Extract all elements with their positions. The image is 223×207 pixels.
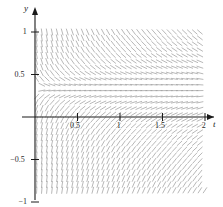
field-segment [187, 135, 193, 139]
field-segment [157, 147, 162, 152]
field-segment [97, 169, 99, 176]
field-segment [198, 187, 202, 193]
field-segment [132, 152, 136, 158]
field-segment [197, 36, 203, 40]
field-segment [136, 135, 141, 140]
field-segment [126, 129, 131, 134]
field-segment [192, 48, 198, 52]
field-segment [167, 29, 172, 34]
field-segment [137, 181, 140, 187]
field-segment [203, 187, 207, 193]
field-segment [171, 54, 177, 58]
field-segment [167, 170, 171, 176]
field-segment [121, 35, 125, 41]
field-segment [41, 52, 43, 59]
field-segment [46, 122, 48, 129]
field-segment [173, 176, 177, 182]
field-segment [152, 170, 156, 176]
field-segment [142, 158, 146, 164]
field-segment [151, 60, 157, 63]
field-segment [61, 52, 64, 58]
field-segment [152, 135, 157, 140]
y-tick-label: 1 [23, 28, 27, 36]
field-segment [91, 47, 95, 53]
field-segment [162, 170, 166, 176]
field-segment [151, 41, 156, 46]
field-segment [51, 52, 53, 59]
field-segment [45, 105, 48, 111]
field-segment [97, 181, 99, 188]
field-segment [60, 106, 64, 111]
field-segment [96, 47, 100, 53]
field-segment [76, 41, 79, 47]
field-segment [101, 140, 104, 146]
field-segment [86, 29, 89, 35]
field-segment [101, 123, 105, 128]
field-segment [142, 175, 145, 181]
field-segment [167, 141, 172, 146]
field-segment [107, 152, 110, 158]
field-segment [131, 123, 136, 128]
field-segment [90, 112, 95, 117]
x-tick-label: 0.5 [70, 122, 80, 130]
field-segment [102, 187, 104, 194]
field-segment [86, 129, 90, 135]
field-segment [120, 65, 126, 68]
field-segment [187, 153, 192, 158]
field-segment [197, 147, 202, 152]
field-segment [105, 65, 111, 69]
field-segment [90, 106, 96, 110]
field-segment [117, 169, 120, 175]
field-segment [51, 117, 54, 124]
field-segment [56, 46, 58, 53]
field-segment [121, 141, 125, 147]
field-segment [197, 54, 203, 57]
field-segment [61, 117, 64, 123]
field-segment [182, 130, 188, 134]
field-segment [76, 35, 79, 41]
field-segment [141, 47, 146, 52]
field-segment [141, 35, 146, 40]
field-segment [87, 158, 89, 165]
field-segment [192, 130, 198, 134]
field-segment [147, 152, 151, 158]
field-segment [137, 164, 140, 170]
field-segment [192, 30, 197, 35]
field-segment [198, 176, 202, 182]
field-segment [192, 153, 197, 158]
field-segment [101, 53, 106, 58]
field-segment [131, 47, 136, 52]
field-segment [41, 111, 43, 118]
field-segment [66, 40, 69, 47]
field-segment [61, 35, 63, 42]
field-segment [137, 29, 141, 35]
field-segment [106, 29, 109, 35]
field-segment [81, 134, 84, 140]
field-segment [157, 29, 162, 34]
field-segment [137, 158, 141, 164]
field-segment [146, 60, 152, 64]
slope-field-figure: 0.511.5210.5−0.5−1 t y [0, 0, 223, 207]
field-segment [86, 140, 89, 146]
field-segment [132, 29, 136, 35]
x-tick-label: 1.5 [155, 122, 165, 130]
field-segment [107, 164, 110, 170]
field-segment [121, 118, 126, 122]
field-segment [131, 35, 135, 40]
field-segment [112, 175, 115, 182]
field-segment [92, 187, 94, 194]
field-segment [182, 147, 187, 152]
field-segment [172, 147, 177, 152]
field-segment [91, 146, 94, 152]
field-segment [127, 158, 130, 164]
field-segment [61, 134, 63, 141]
field-segment [61, 128, 63, 135]
field-segment [65, 106, 70, 111]
field-segment [136, 47, 141, 52]
field-segment [152, 141, 157, 146]
field-segment [60, 71, 65, 76]
field-segment [112, 187, 114, 194]
field-segment [75, 59, 79, 65]
field-segment [192, 42, 198, 46]
field-segment [46, 40, 48, 47]
